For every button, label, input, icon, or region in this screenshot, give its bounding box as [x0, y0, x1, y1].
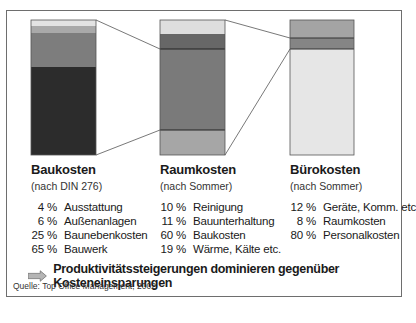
bar-raumkosten: [160, 20, 225, 155]
list-item: 10 %Reinigung: [160, 200, 281, 214]
list-item: 11 %Bauunterhaltung: [160, 214, 281, 228]
column-title: Raumkosten: [160, 162, 281, 177]
column-title: Bürokosten: [290, 162, 416, 177]
segment-bauwerk: [31, 67, 96, 155]
list-item: 8 %Raumkosten: [290, 214, 416, 228]
segment-waerme-kaelte: [160, 130, 225, 155]
legend-baukosten: Baukosten (nach DIN 276) 4 %Ausstattung …: [31, 162, 148, 256]
list-item: 80 %Personalkosten: [290, 228, 416, 242]
column-subtitle: (nach DIN 276): [31, 179, 148, 193]
legend-raumkosten: Raumkosten (nach Sommer) 10 %Reinigung 1…: [160, 162, 281, 256]
list-item: 4 %Ausstattung: [31, 200, 148, 214]
column-subtitle: (nach Sommer): [290, 179, 416, 193]
legend-buerokosten: Bürokosten (nach Sommer) 12 %Geräte, Kom…: [290, 162, 416, 242]
segment-ausstattung: [31, 20, 96, 26]
segment-geraete: [290, 20, 354, 38]
bar-buerokosten: [290, 20, 354, 155]
list-item: 25 %Baunebenkosten: [31, 228, 148, 242]
segment-reinigung: [160, 20, 225, 34]
column-subtitle: (nach Sommer): [160, 179, 281, 193]
segment-bauunterhaltung: [160, 34, 225, 49]
list-item: 65 %Bauwerk: [31, 242, 148, 256]
list-item: 6 %Außenanlagen: [31, 214, 148, 228]
source-note: Quelle: Top Office Management, 2002: [13, 281, 156, 291]
list-item: 12 %Geräte, Komm. etc: [290, 200, 416, 214]
segment-personalkosten: [290, 49, 354, 155]
bar-baukosten: [31, 20, 96, 155]
segment-baunebenkosten: [31, 33, 96, 67]
list-item: 19 %Wärme, Kälte etc.: [160, 242, 281, 256]
segment-baukosten: [160, 49, 225, 130]
column-title: Baukosten: [31, 162, 148, 177]
list-item: 60 %Baukosten: [160, 228, 281, 242]
segment-raumkosten: [290, 38, 354, 49]
segment-aussenanlagen: [31, 26, 96, 33]
